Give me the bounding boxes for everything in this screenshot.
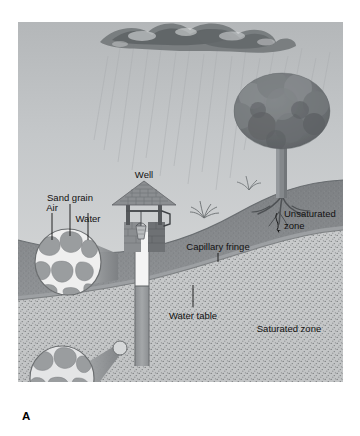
- label-unsaturated-zone-line1: Unsaturated: [284, 208, 336, 219]
- groundwater-figure: Sand grain Air Water Well Capillary frin…: [0, 0, 360, 436]
- label-unsaturated-zone-line2: zone: [284, 220, 305, 231]
- well-curb-right: [148, 222, 165, 252]
- label-water: Water: [76, 213, 101, 224]
- panel-label-a: A: [22, 410, 30, 422]
- groundwater-diagram: Sand grain Air Water Well Capillary frin…: [0, 0, 360, 436]
- well-shaft-water: [135, 286, 149, 366]
- label-air: Air: [46, 202, 58, 213]
- well-shaft: [135, 232, 149, 366]
- label-saturated-zone: Saturated zone: [257, 323, 321, 334]
- label-well: Well: [135, 169, 153, 180]
- well-post-left: [126, 205, 130, 225]
- well-post-right: [158, 205, 162, 225]
- label-capillary-fringe: Capillary fringe: [186, 241, 249, 252]
- label-water-table: Water table: [169, 310, 217, 321]
